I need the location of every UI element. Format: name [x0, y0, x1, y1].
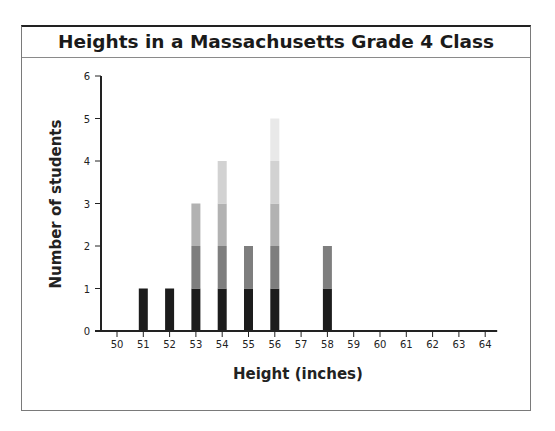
- y-tick-label: 3: [84, 199, 90, 210]
- x-tick-label: 59: [347, 339, 360, 350]
- bar-block: [323, 246, 332, 289]
- x-tick-label: 55: [242, 339, 255, 350]
- bar-block: [270, 119, 279, 162]
- x-tick-label: 52: [163, 339, 176, 350]
- bar-block: [191, 204, 200, 247]
- x-tick-label: 62: [426, 339, 439, 350]
- y-tick-label: 4: [84, 156, 90, 167]
- bar-block: [270, 161, 279, 204]
- x-tick-label: 58: [321, 339, 334, 350]
- y-tick-label: 2: [84, 241, 90, 252]
- bar-block: [270, 204, 279, 247]
- y-tick-label: 1: [84, 284, 90, 295]
- x-tick-label: 61: [400, 339, 413, 350]
- x-tick-label: 54: [216, 339, 229, 350]
- x-tick-label: 63: [453, 339, 466, 350]
- y-tick-label: 6: [84, 71, 90, 82]
- bar-block: [218, 204, 227, 247]
- x-tick-label: 56: [268, 339, 281, 350]
- bar-block: [323, 289, 332, 332]
- bar-block: [139, 289, 148, 332]
- x-tick-label: 57: [295, 339, 308, 350]
- bar-block: [165, 289, 174, 332]
- bar-block: [244, 289, 253, 332]
- bar-block: [270, 289, 279, 332]
- bar-block: [218, 289, 227, 332]
- x-tick-label: 50: [111, 339, 124, 350]
- x-tick-label: 60: [374, 339, 387, 350]
- x-tick-label: 51: [137, 339, 150, 350]
- bar-block: [244, 246, 253, 289]
- x-tick-label: 53: [190, 339, 203, 350]
- bar-block: [270, 246, 279, 289]
- y-tick-label: 0: [84, 326, 90, 337]
- bar-block: [218, 246, 227, 289]
- bar-block: [191, 246, 200, 289]
- y-tick-label: 5: [84, 114, 90, 125]
- x-tick-label: 64: [479, 339, 492, 350]
- y-axis-label: Number of students: [47, 120, 65, 289]
- bar-block: [191, 289, 200, 332]
- x-axis-label: Height (inches): [233, 365, 363, 383]
- bar-block: [218, 161, 227, 204]
